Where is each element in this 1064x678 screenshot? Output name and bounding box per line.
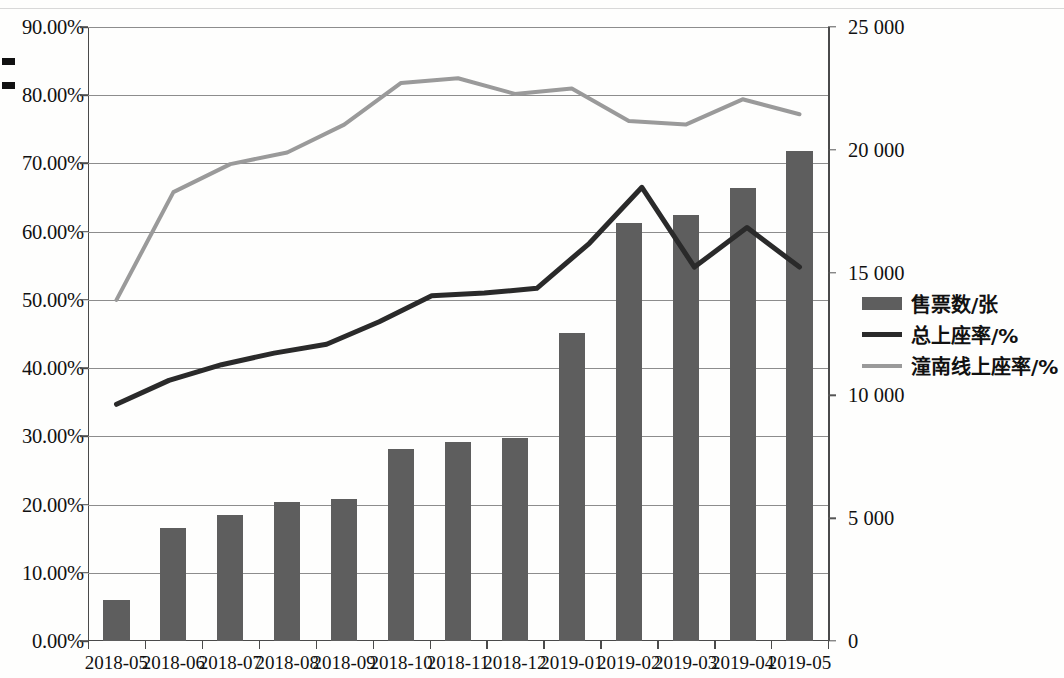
bar <box>559 333 585 641</box>
left-axis-tick-label: 0.00% <box>0 630 84 653</box>
gridline <box>88 95 828 96</box>
right-axis-tick-label: 0 <box>848 630 858 653</box>
left-axis-tick-label: 80.00% <box>0 84 84 107</box>
x-axis-tick <box>145 641 146 649</box>
left-axis-tick <box>80 436 88 438</box>
legend-line-dark-icon <box>862 332 902 337</box>
left-axis-tick <box>80 299 88 301</box>
x-axis-tick <box>600 641 601 649</box>
bar <box>217 515 243 641</box>
x-axis-tick-label: 2019-04 <box>711 652 774 674</box>
bar <box>502 438 528 641</box>
x-axis-tick <box>316 641 317 649</box>
right-axis-tick-label: 5 000 <box>848 507 894 530</box>
gridline <box>88 163 828 164</box>
legend-swatch-icon <box>862 297 902 310</box>
x-axis-tick <box>714 641 715 649</box>
left-axis-tick-label: 90.00% <box>0 16 84 39</box>
legend-item-label: 售票数/张 <box>911 289 998 318</box>
left-axis-tick <box>80 367 88 369</box>
x-axis-tick-label: 2018-06 <box>142 652 205 674</box>
x-axis-tick <box>88 641 89 649</box>
right-axis-tick <box>828 517 836 518</box>
bar <box>786 151 812 641</box>
bar <box>103 600 129 641</box>
left-axis-tick-label: 10.00% <box>0 561 84 584</box>
x-axis-tick <box>828 641 829 649</box>
bar <box>445 442 471 641</box>
x-axis-tick <box>771 641 772 649</box>
bar <box>616 223 642 641</box>
x-axis-tick <box>543 641 544 649</box>
left-axis-tick-label: 20.00% <box>0 493 84 516</box>
legend-item-label: 潼南线上座率/% <box>911 351 1058 380</box>
right-axis-tick <box>828 149 836 150</box>
legend-item[interactable]: 潼南线上座率/% <box>862 350 1058 381</box>
page-top-rule <box>0 8 1064 9</box>
bar <box>388 449 414 641</box>
x-axis-tick-label: 2018-12 <box>483 652 546 674</box>
left-axis-tick <box>80 231 88 233</box>
bar <box>673 215 699 641</box>
bar <box>730 188 756 641</box>
left-axis-tick <box>80 94 88 96</box>
gridline <box>88 368 828 369</box>
left-axis-tick <box>80 504 88 506</box>
left-axis-tick-label: 40.00% <box>0 357 84 380</box>
x-axis-tick-label: 2018-05 <box>85 652 148 674</box>
x-axis-tick-label: 2019-01 <box>540 652 603 674</box>
bar <box>160 528 186 641</box>
left-axis-tick-label: 50.00% <box>0 288 84 311</box>
x-axis-tick <box>259 641 260 649</box>
right-axis-tick-label: 10 000 <box>848 384 904 407</box>
left-axis-tick-label: 30.00% <box>0 425 84 448</box>
gridline <box>88 27 828 28</box>
chart-container: 0.00%10.00%20.00%30.00%40.00%50.00%60.00… <box>0 0 1064 678</box>
x-axis-tick-label: 2018-07 <box>199 652 262 674</box>
right-axis-tick <box>828 272 836 273</box>
gridline <box>88 232 828 233</box>
x-axis-tick-label: 2019-03 <box>654 652 717 674</box>
x-axis-tick <box>657 641 658 649</box>
gridline <box>88 436 828 437</box>
x-axis-tick-label: 2019-02 <box>597 652 660 674</box>
x-axis-tick-label: 2018-08 <box>256 652 319 674</box>
legend-item[interactable]: 售票数/张 <box>862 288 1058 319</box>
bar <box>331 499 357 641</box>
legend-item[interactable]: 总上座率/% <box>862 319 1058 350</box>
chart-legend: 售票数/张总上座率/%潼南线上座率/% <box>862 288 1058 381</box>
x-axis-tick <box>430 641 431 649</box>
legend-item-label: 总上座率/% <box>911 320 1018 349</box>
x-axis-tick-label: 2018-10 <box>369 652 432 674</box>
left-axis-tick <box>80 572 88 574</box>
left-axis-tick <box>80 26 88 28</box>
gridline <box>88 300 828 301</box>
x-axis-tick-label: 2019-05 <box>768 652 831 674</box>
right-axis-tick-label: 25 000 <box>848 16 904 39</box>
left-axis-tick <box>80 163 88 165</box>
scan-artifact-mark <box>2 58 15 65</box>
right-axis-tick-label: 20 000 <box>848 138 904 161</box>
right-axis-tick-label: 15 000 <box>848 261 904 284</box>
right-axis-spine <box>828 27 830 641</box>
right-axis-tick <box>828 395 836 396</box>
x-axis-tick <box>373 641 374 649</box>
x-axis-tick-label: 2018-11 <box>427 652 490 674</box>
x-axis-tick-label: 2018-09 <box>312 652 375 674</box>
left-axis-tick <box>80 640 88 642</box>
right-axis-tick <box>828 26 836 27</box>
bar <box>274 502 300 641</box>
x-axis-tick <box>202 641 203 649</box>
legend-line-light-icon <box>862 364 902 368</box>
left-axis-tick-label: 70.00% <box>0 152 84 175</box>
x-axis-tick <box>486 641 487 649</box>
left-axis-tick-label: 60.00% <box>0 220 84 243</box>
